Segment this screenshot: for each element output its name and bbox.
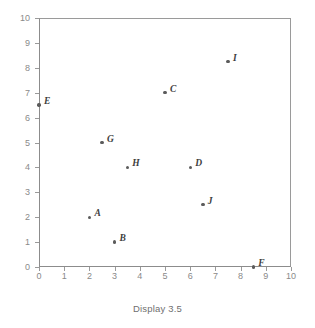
data-point-label-g: G (107, 135, 114, 145)
data-point-g (100, 141, 103, 144)
x-tick-label: 0 (36, 271, 41, 281)
scatter-plot-figure: 012345678910 012345678910 ABCDEFGHIJ Dis… (0, 0, 315, 328)
y-tick-mark (35, 118, 39, 119)
y-tick-mark (35, 93, 39, 94)
data-point-a (88, 216, 91, 219)
y-tick-label: 6 (25, 113, 30, 123)
x-tick-label: 1 (62, 271, 67, 281)
data-point-label-d: D (195, 159, 202, 169)
y-tick-mark (35, 43, 39, 44)
x-tick-label: 5 (162, 271, 167, 281)
data-point-i (226, 60, 229, 63)
data-point-label-e: E (44, 97, 50, 107)
data-point-label-a: A (94, 209, 100, 219)
x-tick-label: 2 (87, 271, 92, 281)
data-point-d (189, 166, 192, 169)
x-tick-label: 3 (112, 271, 117, 281)
y-tick-mark (35, 192, 39, 193)
data-point-label-c: C (170, 85, 176, 95)
y-tick-label: 2 (25, 212, 30, 222)
y-tick-label: 9 (25, 38, 30, 48)
x-tick-label: 10 (286, 271, 296, 281)
x-tick-label: 6 (188, 271, 193, 281)
data-point-label-f: F (258, 259, 264, 269)
x-tick-label: 7 (213, 271, 218, 281)
data-point-label-i: I (233, 54, 237, 64)
y-tick-mark (35, 18, 39, 19)
y-tick-label: 4 (25, 162, 30, 172)
x-tick-label: 9 (263, 271, 268, 281)
y-tick-label: 0 (25, 262, 30, 272)
data-point-h (126, 166, 129, 169)
y-tick-label: 5 (25, 138, 30, 148)
y-tick-label: 3 (25, 187, 30, 197)
y-tick-mark (35, 267, 39, 268)
x-tick-label: 4 (137, 271, 142, 281)
data-point-label-j: J (208, 197, 213, 207)
y-tick-mark (35, 242, 39, 243)
x-tick-label: 8 (238, 271, 243, 281)
figure-caption: Display 3.5 (0, 303, 315, 314)
y-tick-label: 10 (20, 13, 30, 23)
data-point-c (163, 91, 166, 94)
data-point-e (37, 103, 40, 106)
plot-area: 012345678910 012345678910 ABCDEFGHIJ (39, 18, 291, 267)
data-point-label-b: B (120, 234, 126, 244)
data-point-label-h: H (132, 159, 139, 169)
y-tick-mark (35, 143, 39, 144)
y-tick-mark (35, 167, 39, 168)
data-point-b (113, 240, 116, 243)
y-tick-label: 7 (25, 88, 30, 98)
y-tick-label: 1 (25, 237, 30, 247)
y-tick-label: 8 (25, 63, 30, 73)
y-tick-mark (35, 68, 39, 69)
data-point-f (252, 265, 255, 268)
y-tick-mark (35, 217, 39, 218)
data-point-j (201, 203, 204, 206)
